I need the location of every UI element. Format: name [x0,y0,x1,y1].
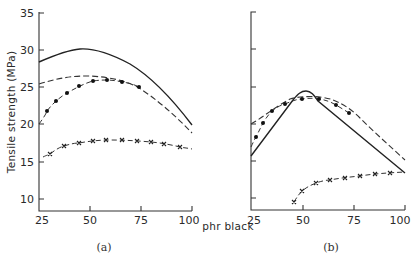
panel-a-cross-markers [48,138,182,156]
y-tick-label: 20 [20,118,34,131]
panel-a: 35 30 25 20 15 10 25 50 75 100 Tensile s… [5,7,200,254]
x-tick-label: 50 [296,214,310,227]
panel-b-x-ticks: 25 50 75 100 [247,205,411,227]
x-tick-label: 50 [83,214,97,227]
panel-a-y-ticks: 35 30 25 20 15 10 [20,7,44,206]
x-tick-label: 100 [390,214,411,227]
x-tick-label: 75 [134,214,148,227]
panel-b: 25 50 75 100 (b) [247,12,411,254]
x-tick-label: 100 [179,214,200,227]
y-tick-label: 25 [20,81,34,94]
panel-a-cross-curve [43,140,192,157]
panel-a-axes [39,12,192,211]
figure: 35 30 25 20 15 10 25 50 75 100 Tensile s… [0,0,414,263]
panel-b-label: (b) [323,241,339,254]
panel-a-dashed-curve [39,76,192,133]
x-tick-label: 75 [347,214,361,227]
panel-b-solid-curve [251,91,405,173]
panel-a-x-ticks: 25 50 75 100 [35,206,200,227]
y-tick-label: 15 [20,156,34,169]
panel-a-circle-curve [39,80,139,124]
panel-a-solid-curve [39,49,192,125]
y-tick-label: 30 [20,44,34,57]
panel-b-cross-curve [294,172,405,202]
y-tick-label: 10 [20,193,34,206]
panel-a-label: (a) [96,241,111,254]
y-tick-label: 35 [20,7,34,20]
x-tick-label: 25 [35,214,49,227]
y-axis-title: Tensile strength (MPa) [5,51,17,175]
panel-b-dashed-curve [251,97,405,161]
x-tick-label: 25 [247,214,261,227]
